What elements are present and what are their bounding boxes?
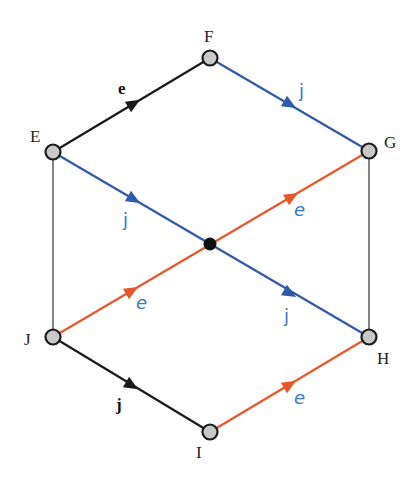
arrow-icon-J-I [123, 377, 141, 395]
node-I [203, 425, 218, 440]
arrow-icon-E-C [125, 191, 143, 208]
arrow-icon-E-F [125, 95, 143, 112]
node-center [204, 238, 217, 251]
node-J [46, 330, 61, 345]
hexagon-graph-diagram: E F G H I J e j j j e e j e [0, 0, 414, 484]
label-edge-I-H: e [294, 387, 305, 408]
label-edge-E-F: e [118, 79, 126, 98]
label-node-G: G [384, 133, 396, 152]
label-edge-E-C: j [122, 209, 128, 230]
diagram-canvas: E F G H I J e j j j e e j e [0, 0, 414, 484]
label-node-J: J [24, 330, 31, 349]
label-edge-J-I: j [115, 395, 122, 414]
label-edge-C-H: j [283, 305, 289, 326]
label-edge-C-G: e [294, 199, 305, 220]
label-node-I: I [196, 443, 202, 462]
label-node-H: H [377, 349, 389, 368]
label-edge-F-G: j [298, 80, 304, 101]
node-F [203, 51, 218, 66]
label-node-F: F [204, 27, 213, 46]
label-edge-J-C: e [136, 292, 147, 313]
node-E [46, 145, 61, 160]
node-H [362, 330, 377, 345]
arrow-icon-F-G [281, 96, 299, 113]
label-node-E: E [30, 127, 40, 146]
node-G [362, 144, 377, 159]
